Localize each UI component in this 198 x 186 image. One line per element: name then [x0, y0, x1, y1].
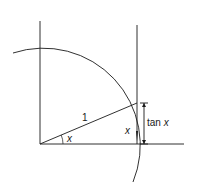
angle-marker-tangent — [136, 131, 138, 141]
tan-var: x — [163, 117, 170, 128]
unit-circle-diagram: 1 x x tan x — [0, 0, 198, 186]
angle-arc-origin — [61, 135, 63, 144]
radius-label: 1 — [82, 112, 88, 123]
tan-label: tan x — [147, 117, 170, 128]
radius-line — [40, 103, 137, 144]
tan-prefix: tan — [147, 117, 164, 128]
angle-label-tangent: x — [124, 125, 131, 136]
circle-arc — [13, 48, 140, 182]
angle-label-origin: x — [66, 133, 73, 144]
